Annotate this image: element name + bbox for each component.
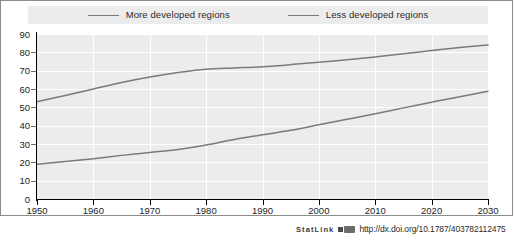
y-axis-tick-mark [31, 126, 36, 127]
x-axis-tick-mark [206, 200, 207, 205]
figure-container: More developed regions Less developed re… [0, 0, 514, 241]
x-axis-tick-label: 1990 [241, 206, 285, 216]
series-line-less-developed [37, 91, 488, 164]
series-line-more-developed [37, 45, 488, 102]
y-axis-tick-label: 70 [4, 66, 30, 76]
y-axis-tick-label: 90 [4, 30, 30, 40]
x-axis-tick-label: 1960 [71, 206, 115, 216]
y-axis-line [36, 32, 37, 201]
x-axis-tick-mark [319, 200, 320, 205]
statlink-footer: StatLink http://dx.doi.org/10.1787/40378… [296, 224, 506, 234]
y-axis-labels: 0102030405060708090 [1, 1, 30, 217]
statlink-glyph-icon [338, 226, 355, 233]
line-swatch-icon [288, 15, 319, 16]
y-axis-tick-mark [31, 52, 36, 53]
x-axis-tick-mark [432, 200, 433, 205]
y-axis-tick-mark [31, 144, 36, 145]
y-axis-tick-label: 10 [4, 176, 30, 186]
x-axis-tick-mark [488, 200, 489, 205]
legend-label-more-developed: More developed regions [126, 10, 230, 20]
y-axis-tick-label: 30 [4, 140, 30, 150]
x-axis-tick-label: 1950 [15, 206, 59, 216]
y-axis-tick-label: 60 [4, 85, 30, 95]
x-axis-tick-label: 1980 [184, 206, 228, 216]
chart-legend: More developed regions Less developed re… [28, 6, 488, 24]
series-lines [37, 34, 488, 199]
y-axis-tick-mark [31, 181, 36, 182]
plot-area-wrapper [37, 34, 488, 199]
y-axis-tick-mark [31, 71, 36, 72]
x-axis-tick-mark [93, 200, 94, 205]
x-axis-tick-mark [263, 200, 264, 205]
y-axis-tick-label: 80 [4, 48, 30, 58]
legend-label-less-developed: Less developed regions [326, 10, 429, 20]
x-axis-tick-mark [150, 200, 151, 205]
y-axis-tick-label: 0 [4, 195, 30, 205]
y-axis-tick-label: 50 [4, 103, 30, 113]
x-axis-tick-label: 2030 [466, 206, 510, 216]
y-axis-tick-label: 20 [4, 158, 30, 168]
x-axis-tick-label: 2020 [410, 206, 454, 216]
statlink-label: StatLink [296, 225, 334, 234]
y-axis-tick-mark [31, 107, 36, 108]
x-axis-tick-label: 2010 [353, 206, 397, 216]
line-swatch-icon [88, 15, 119, 16]
x-axis-tick-mark [375, 200, 376, 205]
x-axis-tick-label: 2000 [297, 206, 341, 216]
y-axis-tick-label: 40 [4, 121, 30, 131]
x-axis-tick-label: 1970 [128, 206, 172, 216]
legend-entry-less-developed: Less developed regions [288, 10, 429, 20]
legend-entry-more-developed: More developed regions [88, 10, 230, 20]
y-axis-tick-mark [31, 162, 36, 163]
chart-frame: More developed regions Less developed re… [0, 0, 513, 216]
statlink-url-link[interactable]: http://dx.doi.org/10.1787/403782112475 [359, 224, 505, 234]
y-axis-tick-mark [31, 89, 36, 90]
gridline-vertical [488, 34, 489, 199]
x-axis-tick-mark [37, 200, 38, 205]
